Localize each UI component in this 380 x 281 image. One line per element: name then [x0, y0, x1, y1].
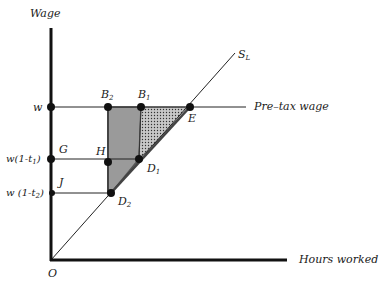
label-D2: D2 — [117, 195, 132, 209]
label-E: E — [187, 112, 196, 125]
origin-label: O — [48, 267, 57, 280]
point-B1 — [137, 103, 145, 111]
label-G: G — [59, 143, 68, 156]
point-G — [47, 155, 55, 163]
x-axis-label: Hours worked — [298, 253, 378, 266]
tax-deadweight-loss-diagram: Wage Hours worked O SL Pre–tax wage w w(… — [0, 0, 380, 281]
point-D2 — [107, 189, 115, 197]
wage-t1-label: w(1-t1) — [6, 153, 41, 166]
point-w — [47, 103, 55, 111]
wage-w-label: w — [33, 101, 43, 114]
label-B1: B1 — [137, 88, 151, 102]
label-B2: B2 — [100, 88, 114, 102]
y-axis-label: Wage — [30, 7, 61, 20]
label-J: J — [57, 176, 64, 189]
point-H — [104, 158, 112, 166]
point-D1 — [135, 155, 143, 163]
point-E — [186, 103, 194, 111]
wage-t2-label: w (1-t2) — [6, 187, 44, 200]
label-H: H — [95, 145, 106, 158]
pretax-wage-label: Pre–tax wage — [253, 100, 329, 113]
point-B2 — [104, 103, 112, 111]
point-J — [49, 190, 55, 196]
supply-curve-label: SL — [238, 48, 251, 62]
label-D1: D1 — [146, 162, 160, 176]
